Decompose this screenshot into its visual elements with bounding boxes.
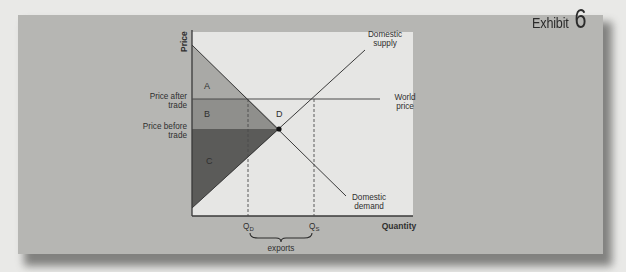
exhibit-number: 6 <box>574 6 586 33</box>
area-d-label: D <box>276 109 283 119</box>
price-before-trade-label-1: Price before <box>143 122 188 131</box>
world-price-label-1: World <box>394 93 416 102</box>
demand-label-2: demand <box>354 202 384 211</box>
supply-label-1: Domestic <box>368 30 402 39</box>
qd-label: QD <box>243 222 254 232</box>
area-c-label: C <box>206 156 213 166</box>
exhibit-title: Exhibit 6 <box>528 6 588 33</box>
price-after-trade-label-2: trade <box>168 101 187 110</box>
area-b-label: B <box>204 109 210 119</box>
y-axis-label: Price <box>179 31 189 52</box>
price-before-trade-label-2: trade <box>168 131 187 140</box>
world-price-label-2: price <box>396 102 414 111</box>
exhibit-word: Exhibit <box>532 15 569 31</box>
equilibrium-point <box>276 126 281 131</box>
exports-brace <box>250 233 312 242</box>
trade-diagram: A B C D Price Price after trade Price be… <box>0 0 626 272</box>
supply-label-2: supply <box>373 39 398 48</box>
area-a-label: A <box>204 81 210 91</box>
qs-label: QS <box>309 222 319 232</box>
exports-label: exports <box>268 244 295 253</box>
demand-label-1: Domestic <box>352 193 386 202</box>
price-after-trade-label-1: Price after <box>150 92 188 101</box>
x-axis-label: Quantity <box>382 221 417 231</box>
